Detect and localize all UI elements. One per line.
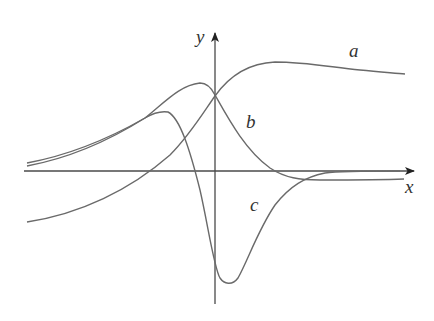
function-graph-figure: y x a b c	[0, 0, 434, 321]
curve-c	[27, 112, 400, 284]
x-axis-label: x	[404, 176, 414, 197]
curve-c-label: c	[250, 194, 259, 215]
curve-a	[27, 62, 405, 222]
y-axis-label: y	[194, 26, 205, 47]
curve-a-label: a	[349, 40, 359, 61]
curve-b-label: b	[246, 111, 256, 132]
